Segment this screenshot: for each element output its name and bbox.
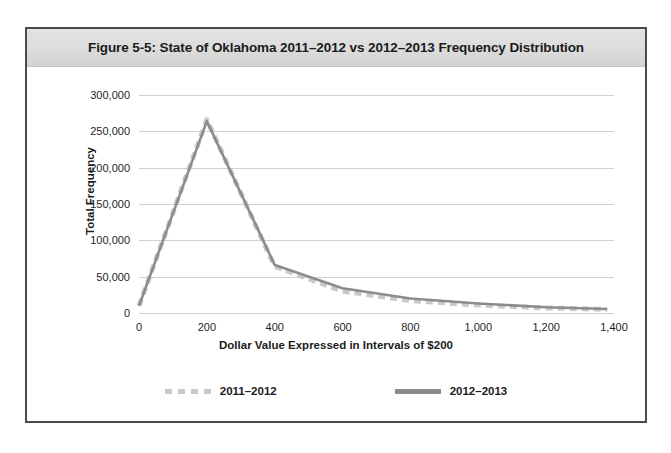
legend-label-2011-2012: 2011–2012 xyxy=(220,385,277,397)
y-axis-tick-label: 250,000 xyxy=(90,125,130,137)
series-line-2012-2013 xyxy=(139,121,607,309)
y-axis-tick-label: 300,000 xyxy=(90,89,130,101)
chart-legend: 2011–2012 2012–2013 xyxy=(27,385,645,397)
legend-label-2012-2013: 2012–2013 xyxy=(450,385,508,397)
x-axis-title: Dollar Value Expressed in Intervals of $… xyxy=(27,339,645,351)
x-axis-tick-label: 0 xyxy=(136,321,142,333)
y-axis-tick-label: 0 xyxy=(124,307,130,319)
plot-area: 050,000100,000150,000200,000250,000300,0… xyxy=(139,95,614,313)
chart-body: Total Frequency 050,000100,000150,000200… xyxy=(27,67,645,423)
figure-title-bar: Figure 5-5: State of Oklahoma 2011–2012 … xyxy=(27,29,645,67)
y-axis-tick-label: 50,000 xyxy=(96,271,130,283)
x-axis-tick-label: 200 xyxy=(198,321,216,333)
x-axis-tick-label: 800 xyxy=(401,321,419,333)
y-axis-tick-label: 100,000 xyxy=(90,234,130,246)
gridline xyxy=(139,313,614,314)
solid-line-swatch-icon xyxy=(395,389,441,394)
series-line-2011-2012 xyxy=(139,120,607,310)
dashed-line-swatch-icon xyxy=(165,389,211,394)
x-axis-tick-label: 1,400 xyxy=(600,321,628,333)
legend-item-2012-2013: 2012–2013 xyxy=(395,385,508,397)
series-plot xyxy=(139,95,614,313)
figure-title: Figure 5-5: State of Oklahoma 2011–2012 … xyxy=(88,40,584,55)
x-axis-tick-label: 1,200 xyxy=(532,321,560,333)
y-axis-tick-label: 200,000 xyxy=(90,162,130,174)
x-axis-tick-label: 600 xyxy=(333,321,351,333)
y-axis-tick-label: 150,000 xyxy=(90,198,130,210)
x-axis-tick-label: 1,000 xyxy=(465,321,493,333)
legend-item-2011-2012: 2011–2012 xyxy=(165,385,277,397)
x-axis-tick-label: 400 xyxy=(266,321,284,333)
figure-frame: Figure 5-5: State of Oklahoma 2011–2012 … xyxy=(25,27,647,423)
